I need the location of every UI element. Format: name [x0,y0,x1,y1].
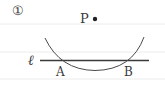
point-p-dot [93,17,97,21]
construction-figure: ① P ℓ A B [0,0,165,89]
point-a-label: A [56,66,65,78]
point-p-label: P [80,12,89,25]
figure-number: ① [12,4,24,17]
line-l-label: ℓ [28,53,34,67]
point-b-label: B [124,66,133,78]
